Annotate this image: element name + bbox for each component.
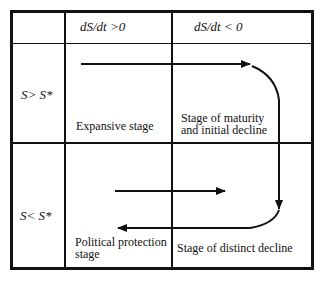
maturity-curve-to-decline-icon	[252, 66, 279, 209]
stage-flow-arrows	[0, 0, 324, 281]
decline-to-protection-arrow-icon	[118, 210, 279, 228]
